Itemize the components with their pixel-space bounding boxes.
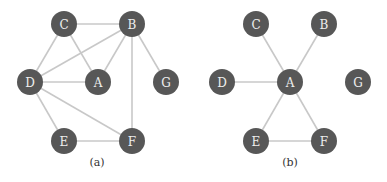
node-D: D <box>17 69 43 95</box>
node-label: F <box>320 135 328 149</box>
node-label: E <box>60 135 69 149</box>
node-C: C <box>243 11 269 37</box>
node-label: F <box>128 135 136 149</box>
graph-b: CBDAGEF (b) <box>209 11 371 169</box>
node-F: F <box>119 128 145 154</box>
node-G: G <box>345 69 371 95</box>
node-label: B <box>320 18 329 32</box>
node-G: G <box>153 69 179 95</box>
node-label: E <box>252 135 261 149</box>
node-label: D <box>25 76 35 90</box>
node-label: D <box>217 76 227 90</box>
node-label: G <box>353 76 363 90</box>
node-label: G <box>161 76 171 90</box>
node-label: B <box>128 18 137 32</box>
node-B: B <box>311 11 337 37</box>
node-label: A <box>285 76 295 90</box>
node-E: E <box>243 128 269 154</box>
graph-b-nodes: CBDAGEF <box>209 11 371 154</box>
node-label: C <box>59 18 68 32</box>
node-label: C <box>251 18 260 32</box>
graph-a-caption: (a) <box>89 156 104 169</box>
edge-B-D <box>30 24 132 82</box>
graph-a: CBDAGEF (a) <box>17 11 179 169</box>
node-label: A <box>93 76 103 90</box>
node-C: C <box>51 11 77 37</box>
graph-b-caption: (b) <box>282 156 298 169</box>
node-A: A <box>85 69 111 95</box>
node-A: A <box>277 69 303 95</box>
node-E: E <box>51 128 77 154</box>
edge-D-F <box>30 82 132 141</box>
graph-a-nodes: CBDAGEF <box>17 11 179 154</box>
node-D: D <box>209 69 235 95</box>
graph-b-edges <box>222 24 324 141</box>
graph-diagram-canvas: CBDAGEF (a) CBDAGEF (b) <box>0 0 387 182</box>
node-B: B <box>119 11 145 37</box>
node-F: F <box>311 128 337 154</box>
